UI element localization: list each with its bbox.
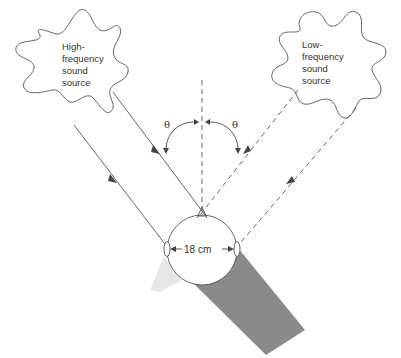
high-source-label-line2: frequency: [62, 53, 104, 64]
left-ear: [164, 242, 170, 257]
low-source-label-line2: frequency: [302, 51, 344, 62]
right-ear: [234, 242, 240, 257]
low-frequency-source-blob: [272, 11, 386, 118]
head-width-label: 18 cm: [184, 244, 211, 255]
theta-right: θ: [232, 119, 238, 130]
low-freq-ray-arrow-1: [243, 145, 251, 154]
angle-arc-right-arrow-top: [205, 119, 210, 125]
angle-arc-left: [166, 122, 194, 150]
high-freq-ray-arrow-1: [151, 145, 160, 154]
theta-left: θ: [164, 119, 170, 130]
angle-arc-right-arrow-bottom: [235, 148, 241, 154]
high-freq-ray-to-left-ear: [74, 125, 168, 248]
sound-localization-diagram: High- frequency sound source Low- freque…: [0, 0, 401, 358]
low-source-label-line4: source: [302, 75, 331, 86]
high-source-label-line3: sound: [62, 65, 88, 76]
low-source-label-line3: sound: [302, 63, 328, 74]
high-source-label-line4: source: [62, 77, 91, 88]
low-freq-ray-to-right-ear: [236, 108, 356, 248]
low-freq-ray-arrow-2: [286, 176, 295, 184]
high-source-label-line1: High-: [62, 41, 85, 52]
low-source-label-line1: Low-: [302, 39, 323, 50]
angle-arc-left-arrow-top: [194, 119, 199, 125]
low-freq-ray-to-head: [200, 90, 298, 215]
angle-arc-left-arrow-bottom: [163, 148, 169, 154]
